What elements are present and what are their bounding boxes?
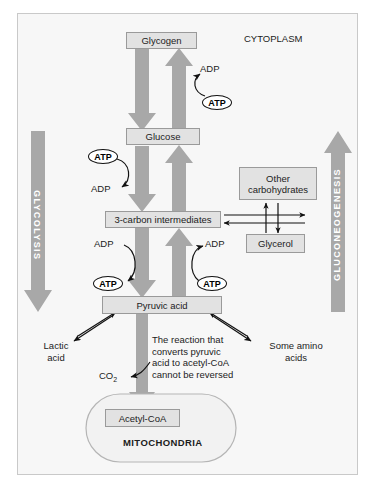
gluconeogenesis-label: GLUCONEOGENESIS	[332, 168, 342, 281]
metabolite-box-pyruvic-acid[interactable]: Pyruvic acid	[102, 296, 222, 314]
metabolite-box-other-carbohydrates[interactable]: Other carbohydrates	[239, 167, 317, 200]
co2-text: CO	[99, 370, 113, 381]
lactic-acid-arrows	[74, 312, 116, 341]
co2-subscript: 2	[113, 376, 117, 383]
diagram-graphics-layer	[0, 0, 373, 488]
glucose-to-intermediates-arrow	[128, 146, 156, 212]
adp-label-glycogen-synthesis: ADP	[200, 63, 220, 75]
lactic-acid-label: Lactic acid	[30, 340, 82, 363]
atp-oval-pyruvate-carboxylation[interactable]: ATP	[197, 276, 227, 291]
adp-label-pyruvate-carboxylation: ADP	[205, 238, 225, 250]
metabolite-box-three-carbon-intermediates[interactable]: 3-carbon intermediates	[105, 211, 221, 228]
adp-label-glycolysis-yield: ADP	[94, 238, 114, 250]
glycolysis-label: GLYCOLYSIS	[32, 190, 42, 260]
intermediates-carbohydrates-reversible-arrows	[224, 215, 305, 223]
diagram-canvas: GLYCOLYSIS GLUCONEOGENESIS CYTOPLASM MIT…	[0, 0, 373, 488]
adp-atp-curve-left	[124, 245, 135, 281]
metabolite-box-glycerol[interactable]: Glycerol	[246, 234, 305, 253]
atp-oval-glucose-phosphorylation[interactable]: ATP	[88, 149, 118, 164]
co2-label: CO2	[99, 370, 117, 385]
atp-adp-curve-glycogen	[195, 74, 205, 96]
irreversibility-annotation: The reaction that converts pyruvic acid …	[152, 334, 264, 380]
carbohydrates-glycerol-arrows	[266, 203, 278, 233]
metabolite-box-acetyl-coa[interactable]: Acetyl-CoA	[105, 409, 180, 427]
atp-adp-curve-right	[192, 246, 203, 281]
pyruvate-to-intermediates-arrow	[165, 228, 193, 296]
some-amino-acids-label: Some amino acids	[258, 340, 334, 363]
glycogen-to-glucose-arrow	[128, 49, 156, 131]
atp-oval-glycogen-synthesis[interactable]: ATP	[202, 95, 232, 110]
glucose-to-glycogen-arrow	[165, 48, 193, 128]
metabolite-box-glycogen[interactable]: Glycogen	[126, 32, 197, 49]
intermediates-to-pyruvate-arrow	[128, 228, 156, 298]
atp-adp-curve-glucose	[117, 159, 129, 187]
atp-oval-glycolysis-yield[interactable]: ATP	[93, 276, 123, 291]
adp-label-glucose-phosphorylation: ADP	[91, 183, 111, 195]
mitochondria-label: MITOCHONDRIA	[123, 437, 199, 449]
intermediates-to-glucose-arrow	[165, 145, 193, 211]
mitochondria-outline	[86, 394, 236, 462]
cytoplasm-label: CYTOPLASM	[244, 33, 302, 45]
metabolite-box-glucose[interactable]: Glucose	[126, 128, 200, 145]
